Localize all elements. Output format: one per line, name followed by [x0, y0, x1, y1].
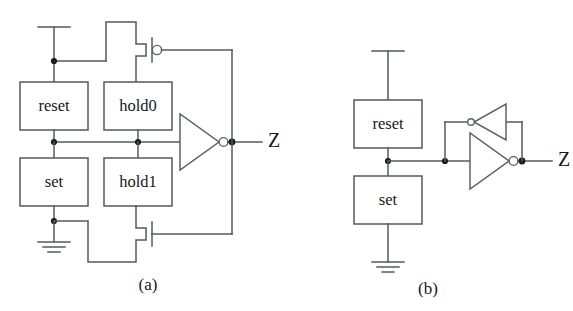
output-inverter-b — [470, 133, 518, 189]
box-set-b: set — [354, 176, 422, 224]
box-reset-b-label: reset — [372, 114, 404, 133]
box-set-b-label: set — [379, 190, 398, 209]
box-hold0-a-label: hold0 — [119, 96, 157, 115]
output-label-z-b: Z — [558, 148, 570, 170]
box-set-a: set — [20, 158, 88, 206]
feedback-inverter-b-bubble — [468, 119, 475, 126]
gnd-symbol-a — [38, 242, 70, 252]
output-inverter-a — [180, 114, 228, 170]
pmos-top-transistor — [106, 22, 232, 82]
junction-dot-vdd-a — [51, 58, 57, 64]
box-reset-a: reset — [20, 82, 88, 130]
circuit-figure: reset hold0 set — [0, 0, 573, 311]
output-inverter-a-bubble — [219, 138, 228, 147]
caption-b: (b) — [418, 279, 438, 298]
box-hold1-a: hold1 — [104, 158, 172, 206]
caption-a: (a) — [139, 275, 158, 294]
nmos-bottom-transistor — [54, 206, 232, 262]
box-hold0-a: hold0 — [104, 82, 172, 130]
box-reset-b: reset — [354, 100, 422, 148]
panel-b: reset set — [354, 51, 570, 298]
box-reset-a-label: reset — [38, 96, 70, 115]
circuit-canvas: reset hold0 set — [0, 0, 573, 311]
gnd-symbol-b — [372, 262, 404, 272]
vdd-symbol-b — [372, 51, 404, 100]
box-hold1-a-label: hold1 — [119, 172, 157, 191]
box-set-a-label: set — [45, 172, 64, 191]
pmos-gate-bubble — [152, 45, 161, 54]
vdd-symbol-a — [38, 27, 70, 82]
output-label-z-a: Z — [268, 129, 280, 151]
panel-a: reset hold0 set — [20, 22, 280, 294]
output-inverter-b-bubble — [509, 157, 518, 166]
